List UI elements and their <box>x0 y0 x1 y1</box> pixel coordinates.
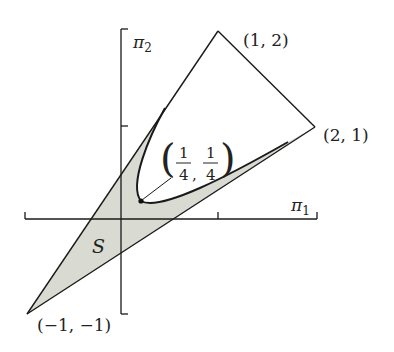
pi1-label: π1 <box>290 195 310 218</box>
close-paren: ) <box>220 135 236 181</box>
comma: , <box>192 166 197 184</box>
vertex-label-2-1: (2, 1) <box>323 125 369 145</box>
pi2-label: π2 <box>132 32 152 55</box>
frac-x-den: 4 <box>179 166 189 184</box>
frac-y-den: 4 <box>206 166 216 184</box>
diagram-canvas: π2 π1 (1, 2) (2, 1) (−1, −1) S ( 1 4 , 1… <box>0 0 394 352</box>
vertex-label-1-2: (1, 2) <box>243 30 289 50</box>
vertex-label-neg1-neg1: (−1, −1) <box>37 315 111 335</box>
region-label-s: S <box>92 235 105 257</box>
leader-line <box>142 178 171 200</box>
frac-y-num: 1 <box>206 144 216 162</box>
open-paren: ( <box>160 135 176 181</box>
edge-left <box>27 31 218 314</box>
point-label-quarter: ( 1 4 , 1 4 ) <box>160 135 236 184</box>
frac-x-num: 1 <box>179 144 189 162</box>
